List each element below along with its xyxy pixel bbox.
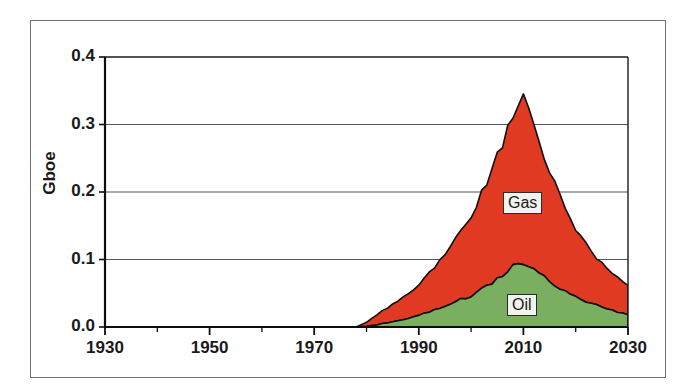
x-axis-tick-label: 1970 [281,338,347,358]
series-label-oil: Oil [507,294,537,316]
figure-container: Gboe 0.00.10.20.30.4 1930195019701990201… [0,0,686,391]
x-axis-tick-label: 2030 [595,338,661,358]
area-series-group [105,94,628,327]
y-axis-tick-label: 0.1 [47,249,95,269]
y-axis-tick-label: 0.2 [47,181,95,201]
x-axis-tick-label: 1930 [72,338,138,358]
y-axis-tick-label: 0.3 [47,114,95,134]
series-label-gas: Gas [503,192,542,214]
y-axis-tick-label: 0.0 [47,316,95,336]
chart-canvas [0,0,686,391]
x-axis-tick-label: 2010 [490,338,556,358]
x-axis-tick-label: 1950 [177,338,243,358]
y-axis-tick-label: 0.4 [47,46,95,66]
x-axis-tick-label: 1990 [386,338,452,358]
